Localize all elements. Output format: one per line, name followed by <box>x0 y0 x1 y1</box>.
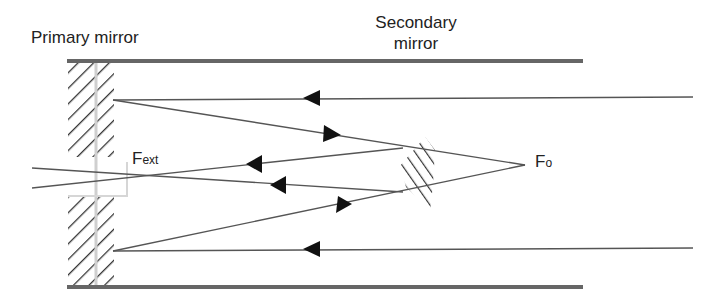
secondary-mirror-label-line1: Secondary <box>366 12 466 33</box>
arrow-left-icon <box>303 90 320 106</box>
f-ext-main: F <box>132 149 142 168</box>
light-rays <box>32 97 693 251</box>
ray-primary-top-to-fo <box>113 100 525 165</box>
arrow-left-icon <box>246 155 262 173</box>
primary-mirror-top <box>68 63 114 157</box>
objective-focus-label: Fo <box>535 152 552 172</box>
f-o-main: F <box>535 152 545 171</box>
external-focus-label: Fext <box>132 149 158 169</box>
secondary-mirror-label: Secondary mirror <box>366 12 466 54</box>
arrow-left-icon <box>303 241 320 257</box>
secondary-mirror-label-line2: mirror <box>366 33 466 54</box>
ray-incoming-top <box>113 97 693 100</box>
f-o-subscript: o <box>545 156 552 170</box>
ray-incoming-bottom <box>113 248 693 251</box>
ray-secondary-lower-out <box>32 168 403 192</box>
arrow-right-icon <box>323 125 341 142</box>
f-ext-subscript: ext <box>142 153 158 167</box>
arrow-right-icon <box>336 196 352 213</box>
primary-mirror-bottom <box>68 196 114 285</box>
ray-arrows <box>246 90 352 257</box>
primary-mirror-label: Primary mirror <box>31 28 139 48</box>
arrow-left-icon <box>270 176 286 194</box>
